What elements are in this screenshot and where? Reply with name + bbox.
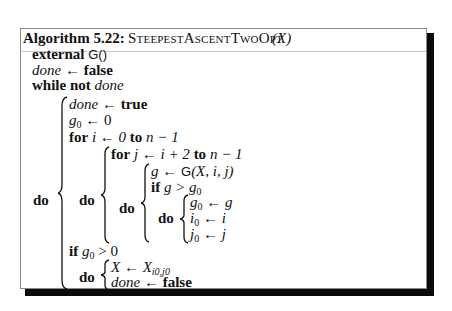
keyword-do-if-g0: do	[79, 269, 95, 285]
value-true: true	[121, 96, 148, 112]
keyword-for: for	[69, 129, 88, 145]
brace-if-g0	[101, 259, 110, 291]
keyword-to: to	[130, 129, 143, 145]
keyword-do-for-j: do	[119, 200, 135, 216]
var-g: g	[190, 194, 198, 210]
algorithm-name: SteepestAscentTwoOpt	[128, 30, 283, 46]
line-done-true: done ← true	[69, 96, 147, 112]
line-external: external G()	[32, 46, 107, 63]
value-false: false	[84, 62, 113, 78]
keyword-external: external	[32, 46, 84, 62]
assign-arrow: ←	[203, 226, 218, 242]
function-args: (X, i, j)	[191, 163, 234, 179]
keyword-do-for-i: do	[79, 192, 95, 208]
brace-for-i	[101, 146, 110, 244]
brace-if	[180, 194, 189, 244]
function-g: G	[181, 164, 191, 179]
assign-arrow: ←	[206, 194, 221, 210]
keyword-do-outer: do	[33, 192, 49, 208]
var-done: done	[111, 274, 140, 290]
brace-for-j	[141, 163, 150, 243]
assign-arrow: ←	[144, 274, 159, 290]
var-x: X	[111, 259, 120, 275]
keyword-not: not	[70, 77, 91, 93]
assign-arrow: ←	[124, 259, 139, 275]
line-for-i: for i ← 0 to n − 1	[69, 129, 179, 145]
assign-arrow: ←	[203, 210, 218, 226]
for-i-init: i ← 0	[92, 129, 126, 145]
keyword-if: if	[69, 243, 78, 259]
var-g: g	[189, 179, 197, 195]
value-g: g	[225, 194, 233, 210]
line-g0-assign: g0 ← g	[190, 194, 233, 210]
line-for-j: for j ← i + 2 to n − 1	[111, 146, 243, 162]
if-cond-lhs: g >	[164, 179, 185, 195]
algorithm-param: (X)	[272, 30, 291, 46]
line-g-assign: g ← G(X, i, j)	[151, 163, 234, 180]
value-i: i	[222, 210, 226, 226]
value-false: false	[163, 274, 192, 290]
keyword-if: if	[151, 179, 160, 195]
line-j0-assign: j0 ← j	[190, 226, 226, 242]
var-g: g	[151, 163, 159, 179]
subscript: 0	[194, 233, 199, 244]
var-done: done	[32, 62, 61, 78]
for-i-limit: n − 1	[146, 129, 179, 145]
value-j: j	[222, 226, 226, 242]
value-x: X	[143, 259, 152, 275]
subscript: 0	[89, 250, 94, 261]
line-g0-init: g0 ← 0	[69, 112, 112, 128]
keyword-do-if: do	[158, 210, 174, 226]
assign-arrow: ←	[85, 112, 100, 128]
function-g: G()	[88, 47, 107, 62]
if-cond-op: > 0	[98, 243, 118, 259]
algorithm-label: Algorithm 5.22:	[23, 30, 125, 46]
assign-arrow: ←	[102, 96, 117, 112]
keyword-to: to	[194, 146, 207, 162]
for-j-init: j ← i + 2	[134, 146, 190, 162]
var-g: g	[69, 112, 77, 128]
line-x-assign: X ← Xi0,j0	[111, 259, 170, 275]
line-i0-assign: i0 ← i	[190, 210, 226, 226]
value-zero: 0	[104, 112, 112, 128]
assign-arrow: ←	[162, 163, 177, 179]
line-while: while not done	[32, 77, 124, 93]
var-done: done	[69, 96, 98, 112]
assign-arrow: ←	[65, 62, 80, 78]
line-done-false: done ← false	[111, 274, 192, 290]
for-j-limit: n − 1	[210, 146, 243, 162]
line-if-g: if g > g0	[151, 179, 202, 195]
brace-outer	[58, 96, 68, 290]
line-done-init: done ← false	[32, 62, 113, 78]
keyword-while: while	[32, 77, 66, 93]
var-done: done	[95, 77, 124, 93]
keyword-for: for	[111, 146, 130, 162]
line-if-g0: if g0 > 0	[69, 243, 118, 259]
